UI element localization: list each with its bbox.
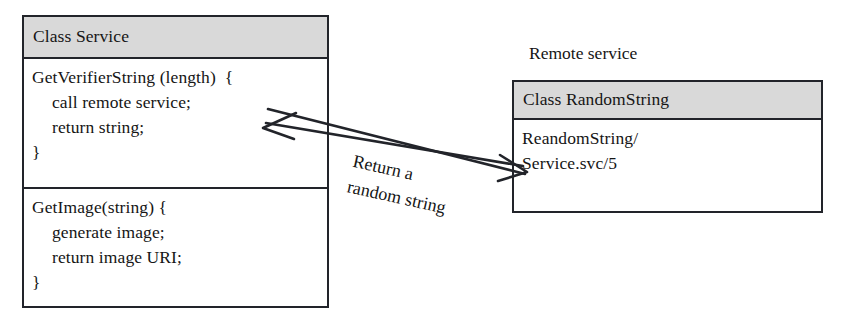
- code-line: GetVerifierString (length) {: [32, 65, 327, 90]
- code-line: Service.svc/5: [522, 151, 821, 176]
- connector-caption: Return a random string: [345, 148, 454, 221]
- code-line: }: [32, 140, 327, 165]
- method-compartment-getimage: GetImage(string) { generate image; retur…: [24, 187, 327, 306]
- code-line: return image URI;: [32, 245, 327, 270]
- code-line: ReandomString/: [522, 126, 821, 151]
- remote-service-label: Remote service: [529, 45, 637, 63]
- class-box-service: Class Service GetVerifierString (length)…: [22, 15, 329, 308]
- code-line: generate image;: [32, 220, 327, 245]
- class-box-randomstring: Class RandomString ReandomString/ Servic…: [512, 80, 823, 213]
- class-header-service: Class Service: [24, 17, 327, 59]
- code-line: call remote service;: [32, 90, 327, 115]
- code-line: GetImage(string) {: [32, 195, 327, 220]
- class-title-service: Class Service: [33, 28, 129, 46]
- code-line: }: [32, 270, 327, 295]
- class-title-randomstring: Class RandomString: [523, 91, 669, 109]
- endpoint-compartment: ReandomString/ Service.svc/5: [514, 120, 821, 211]
- method-compartment-getverifierstring: GetVerifierString (length) { call remote…: [24, 59, 327, 187]
- class-header-randomstring: Class RandomString: [514, 82, 821, 120]
- code-line: return string;: [32, 115, 327, 140]
- diagram-canvas: Class Service GetVerifierString (length)…: [0, 0, 843, 328]
